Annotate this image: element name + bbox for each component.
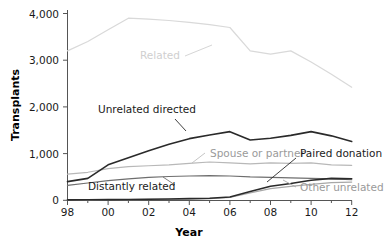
y-axis-title: Transplants — [9, 68, 22, 141]
annotation-leaders — [163, 45, 296, 187]
x-tick-10: 10 — [304, 206, 317, 218]
x-axis-title: Year — [174, 226, 203, 239]
series-label-spouse-or-partner: Spouse or partner — [210, 147, 305, 159]
x-axis-tick-labels: 98 00 02 04 06 08 10 12 — [61, 206, 359, 218]
y-tick-4000: 4,000 — [29, 8, 59, 20]
x-tick-04: 04 — [183, 206, 197, 218]
transplants-line-chart: 4,000 3,000 2,000 1,000 0 98 — [0, 0, 385, 247]
series-label-related: Related — [140, 49, 180, 61]
x-tick-02: 02 — [142, 206, 155, 218]
series-label-paired-donation: Paired donation — [300, 147, 382, 159]
y-tick-2000: 2,000 — [29, 101, 59, 113]
x-tick-08: 08 — [264, 206, 277, 218]
leader-spouse-or-partner — [192, 153, 205, 163]
x-tick-12: 12 — [345, 206, 358, 218]
y-tick-3000: 3,000 — [29, 54, 59, 66]
leader-unrelated-directed — [175, 119, 186, 131]
y-tick-0: 0 — [52, 194, 59, 206]
series-label-other-unrelated: Other unrelated — [300, 181, 384, 193]
chart-svg: 4,000 3,000 2,000 1,000 0 98 — [0, 0, 385, 247]
y-tick-1000: 1,000 — [29, 148, 59, 160]
series-line-related — [68, 18, 352, 87]
series-label-unrelated-directed: Unrelated directed — [98, 103, 196, 115]
x-tick-98: 98 — [61, 206, 74, 218]
x-tick-06: 06 — [223, 206, 237, 218]
y-axis-tick-labels: 4,000 3,000 2,000 1,000 0 — [29, 8, 59, 207]
series-label-distantly-related: Distantly related — [88, 180, 175, 192]
y-axis-ticks — [63, 14, 68, 201]
leader-related — [185, 45, 212, 56]
x-tick-00: 00 — [101, 206, 114, 218]
x-axis-ticks — [68, 201, 352, 206]
series-annotations: Related Unrelated directed Spouse or par… — [88, 49, 384, 193]
